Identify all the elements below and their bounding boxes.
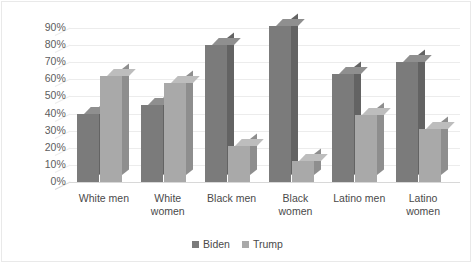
gridline <box>70 28 460 29</box>
legend-item-biden[interactable]: Biden <box>192 238 230 250</box>
bar-top-face <box>403 55 432 62</box>
x-axis-label-latino-women: Latino women <box>383 192 463 218</box>
y-axis-tick-label: 70% <box>20 55 66 67</box>
chart-legend: BidenTrump <box>0 238 475 250</box>
y-axis-tick-label: 30% <box>20 124 66 136</box>
y-axis-tick-label: 20% <box>20 141 66 153</box>
bar-side-face <box>314 149 321 175</box>
y-axis-tick-label: 60% <box>20 72 66 84</box>
bar-trump-white-women[interactable] <box>164 83 186 182</box>
bar-front-face <box>292 161 314 182</box>
y-axis-tick-label: 50% <box>20 89 66 101</box>
bar-front-face <box>228 146 250 182</box>
gridline <box>70 45 460 46</box>
bar-front-face <box>332 74 354 182</box>
legend-item-trump[interactable]: Trump <box>242 238 283 250</box>
axis-baseline <box>70 182 460 183</box>
y-axis-tick-label: 0% <box>20 175 66 187</box>
bar-top-face <box>212 38 241 45</box>
bar-top-face <box>426 122 455 129</box>
bar-top-face <box>171 76 200 83</box>
y-axis-tick-label: 90% <box>20 21 66 33</box>
bar-front-face <box>164 83 186 182</box>
bar-front-face <box>141 105 163 182</box>
bar-trump-latino-women[interactable] <box>419 129 441 182</box>
bar-front-face <box>100 76 122 182</box>
bar-biden-white-women[interactable] <box>141 105 163 182</box>
bar-side-face <box>186 70 193 175</box>
plot-area: 90%80%70%60%50%40%30%20%10%0% White menW… <box>0 0 475 265</box>
bar-trump-black-women[interactable] <box>292 161 314 182</box>
y-axis-tick-label: 10% <box>20 158 66 170</box>
legend-swatch-icon <box>242 241 249 248</box>
bar-biden-black-women[interactable] <box>269 26 291 182</box>
bar-front-face <box>77 114 99 182</box>
bar-top-face <box>276 19 305 26</box>
bar-trump-black-men[interactable] <box>228 146 250 182</box>
bar-front-face <box>269 26 291 182</box>
chart-container: 90%80%70%60%50%40%30%20%10%0% White menW… <box>0 0 475 265</box>
bar-side-face <box>122 63 129 175</box>
y-axis-tick-label: 40% <box>20 107 66 119</box>
bar-front-face <box>205 45 227 182</box>
y-axis-tick-label: 80% <box>20 38 66 50</box>
bar-top-face <box>299 154 328 161</box>
bar-trump-latino-men[interactable] <box>355 115 377 182</box>
bar-biden-latino-women[interactable] <box>396 62 418 182</box>
bar-side-face <box>291 14 298 175</box>
bar-trump-white-men[interactable] <box>100 76 122 182</box>
bar-top-face <box>235 139 264 146</box>
bar-front-face <box>419 129 441 182</box>
bar-front-face <box>355 115 377 182</box>
bar-biden-latino-men[interactable] <box>332 74 354 182</box>
legend-label: Biden <box>203 238 230 250</box>
bar-biden-black-men[interactable] <box>205 45 227 182</box>
bar-top-face <box>107 69 136 76</box>
bar-front-face <box>396 62 418 182</box>
bar-top-face <box>339 67 368 74</box>
legend-swatch-icon <box>192 241 199 248</box>
legend-label: Trump <box>253 238 283 250</box>
bar-biden-white-men[interactable] <box>77 114 99 182</box>
